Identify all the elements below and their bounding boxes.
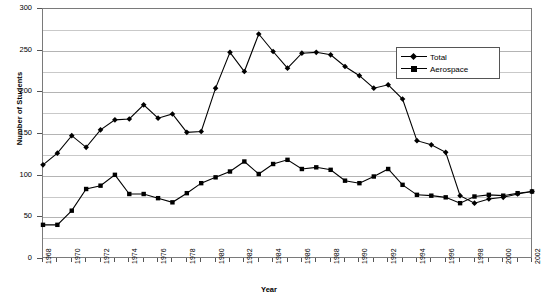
x-tick-mark <box>430 258 431 262</box>
data-point <box>472 194 476 198</box>
data-point <box>285 158 289 162</box>
legend-label: Total <box>427 53 447 62</box>
data-point <box>400 183 404 187</box>
data-point <box>357 181 361 185</box>
x-tick-mark <box>517 258 518 262</box>
x-tick-mark <box>258 258 259 262</box>
x-tick-mark <box>114 258 115 262</box>
x-tick-mark <box>502 258 503 262</box>
x-tick-mark <box>215 258 216 262</box>
x-tick-label: 1992 <box>390 248 397 264</box>
x-tick-mark <box>344 258 345 262</box>
x-tick-label: 1994 <box>419 248 426 264</box>
x-tick-mark <box>373 258 374 262</box>
plot-area <box>42 8 532 258</box>
x-tick-label: 1970 <box>74 248 81 264</box>
x-tick-mark <box>474 258 475 262</box>
data-point <box>213 85 219 91</box>
x-tick-mark <box>243 258 244 262</box>
data-point <box>127 192 131 196</box>
square-marker-icon <box>401 64 427 74</box>
x-tick-mark <box>229 258 230 262</box>
x-tick-label: 1984 <box>275 248 282 264</box>
legend-item-total[interactable]: Total <box>401 51 495 63</box>
data-point <box>530 189 534 193</box>
data-point <box>98 183 102 187</box>
x-tick-mark <box>85 258 86 262</box>
data-point <box>414 138 420 144</box>
data-point <box>156 196 160 200</box>
x-tick-label: 1996 <box>448 248 455 264</box>
x-tick-mark <box>531 258 532 262</box>
y-tick-mark <box>37 175 42 176</box>
y-tick-mark <box>37 133 42 134</box>
x-tick-label: 2002 <box>534 248 541 264</box>
x-tick-mark <box>315 258 316 262</box>
x-tick-label: 1980 <box>218 248 225 264</box>
data-point <box>386 167 390 171</box>
x-tick-mark <box>330 258 331 262</box>
data-point <box>113 173 117 177</box>
y-tick-label: 0 <box>8 253 32 262</box>
data-point <box>444 195 448 199</box>
x-tick-label: 1974 <box>131 248 138 264</box>
x-tick-mark <box>71 258 72 262</box>
data-point <box>372 174 376 178</box>
x-tick-mark <box>56 258 57 262</box>
data-point <box>443 150 449 156</box>
data-point <box>41 223 45 227</box>
data-point <box>458 201 462 205</box>
data-point <box>429 193 433 197</box>
x-tick-label: 1990 <box>361 248 368 264</box>
data-point <box>141 192 145 196</box>
data-point <box>343 178 347 182</box>
data-point <box>457 193 463 199</box>
x-tick-label: 1968 <box>45 248 52 264</box>
y-axis-title: Number of Students <box>15 64 24 154</box>
legend-item-aerospace[interactable]: Aerospace <box>401 63 495 75</box>
x-tick-mark <box>128 258 129 262</box>
x-tick-mark <box>186 258 187 262</box>
x-tick-mark <box>301 258 302 262</box>
data-point <box>515 191 519 195</box>
x-tick-label: 1988 <box>333 248 340 264</box>
data-point <box>313 50 319 56</box>
y-tick-label: 100 <box>8 170 32 179</box>
x-axis-title: Year <box>0 285 538 294</box>
x-tick-mark <box>42 258 43 262</box>
legend-label: Aerospace <box>427 65 468 74</box>
data-point <box>257 172 261 176</box>
x-tick-mark <box>272 258 273 262</box>
data-point <box>170 200 174 204</box>
x-tick-label: 1982 <box>246 248 253 264</box>
x-tick-mark <box>459 258 460 262</box>
x-tick-mark <box>358 258 359 262</box>
data-point <box>328 168 332 172</box>
x-tick-mark <box>402 258 403 262</box>
data-point <box>300 167 304 171</box>
data-point <box>486 196 492 202</box>
legend: Total Aerospace <box>396 47 500 79</box>
x-tick-mark <box>416 258 417 262</box>
x-tick-mark <box>171 258 172 262</box>
y-tick-label: 150 <box>8 128 32 137</box>
y-tick-label: 250 <box>8 45 32 54</box>
x-tick-label: 1972 <box>103 248 110 264</box>
data-point <box>271 162 275 166</box>
x-tick-mark <box>157 258 158 262</box>
x-tick-mark <box>143 258 144 262</box>
x-tick-label: 1986 <box>304 248 311 264</box>
data-point <box>55 223 59 227</box>
data-point <box>199 181 203 185</box>
data-point <box>487 193 491 197</box>
data-point <box>314 165 318 169</box>
data-point <box>228 169 232 173</box>
diamond-marker-icon <box>401 52 427 62</box>
x-tick-mark <box>445 258 446 262</box>
y-tick-mark <box>37 91 42 92</box>
x-tick-mark <box>387 258 388 262</box>
y-tick-label: 300 <box>8 3 32 12</box>
x-tick-mark <box>488 258 489 262</box>
x-tick-label: 1976 <box>160 248 167 264</box>
y-tick-mark <box>37 50 42 51</box>
